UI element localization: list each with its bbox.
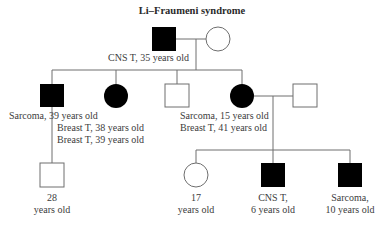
grandson-sarcoma-label-1: Sarcoma, [318, 192, 382, 204]
daughter2-affected-label-1: Sarcoma, 15 years old [180, 110, 269, 122]
grandson-label-2: years old [22, 204, 82, 216]
granddaughter-unaffected-circle [184, 163, 208, 187]
son-affected-square [40, 84, 64, 107]
mother-unaffected-circle [206, 27, 230, 51]
son-affected-label: Sarcoma, 39 years old [9, 110, 98, 122]
grandson-cns-label-2: 6 years old [243, 204, 303, 216]
granddaughter-label-1: 17 [166, 192, 226, 204]
grandson-unaffected-square [40, 163, 64, 187]
grandson-sarcoma-affected-square [338, 163, 362, 187]
grandson-cns-label-1: CNS T, [243, 192, 303, 204]
father-affected-square [152, 27, 176, 51]
father-label: CNS T, 35 years old [108, 52, 189, 64]
daughter-affected-circle [104, 84, 128, 108]
daughter-affected-label-1: Breast T, 38 years old [57, 122, 144, 134]
grandson-sarcoma-label-2: 10 years old [318, 204, 382, 216]
daughter-affected-label-2: Breast T, 39 years old [57, 134, 144, 146]
grandson-cns-affected-square [261, 163, 285, 187]
daughter2-affected-circle [230, 84, 254, 108]
spouse-unaffected-square [293, 84, 317, 107]
daughter2-affected-label-2: Breast T, 41 years old [180, 122, 267, 134]
grandson-label-1: 28 [22, 192, 82, 204]
son-unaffected-square [165, 84, 189, 107]
granddaughter-label-2: years old [166, 204, 226, 216]
